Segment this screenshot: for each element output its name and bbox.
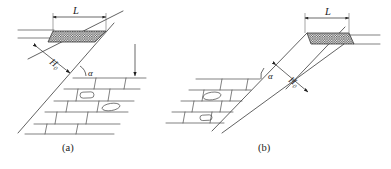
panel-a-left-strata-lines: [18, 30, 54, 38]
panel-a-angle-label: α: [88, 68, 93, 78]
panel-b: L H0 α: [166, 6, 380, 133]
panel-a-length-dimension: L: [53, 5, 106, 31]
panel-a-caption: (a): [62, 142, 74, 153]
panel-b-length-label: L: [324, 6, 331, 17]
panel-a-gravel-inclusions: [80, 92, 121, 112]
panel-a: L H0 α: [18, 5, 146, 134]
panel-a-thickness-label: H0: [46, 56, 62, 72]
panel-a-dip-angle-marker: α: [80, 66, 93, 78]
panel-b-length-dimension: L: [305, 6, 349, 33]
panel-b-thickness-dimension: H0: [276, 65, 308, 92]
panel-a-thickness-dimension: H0: [37, 47, 70, 73]
figure-container: L H0 α: [0, 0, 391, 169]
panel-b-angle-label: α: [268, 71, 273, 81]
panel-a-bedded-rock-mass: [25, 78, 146, 134]
panel-b-hatched-seam-band: [307, 33, 354, 44]
panel-b-caption: (b): [258, 142, 270, 153]
diagram-canvas: L H0 α: [0, 0, 391, 169]
panel-a-length-label: L: [72, 5, 79, 16]
panel-a-hatched-seam-band: [48, 31, 106, 42]
panel-b-bedded-rock-mass: [166, 79, 260, 123]
